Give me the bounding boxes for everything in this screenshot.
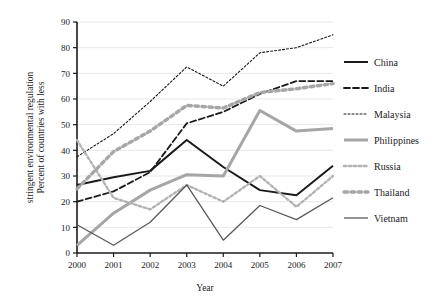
legend-label-vietnam: Vietnam xyxy=(374,213,408,224)
y-tick-label: 60 xyxy=(61,94,71,104)
x-tick-label: 2006 xyxy=(287,260,306,270)
legend-label-philippines: Philippines xyxy=(374,135,419,146)
legend-label-thailand: Thailand xyxy=(374,187,410,198)
x-tick-label: 2004 xyxy=(214,260,233,270)
x-tick-label: 2002 xyxy=(141,260,159,270)
y-axis-ticks: 0102030405060708090 xyxy=(61,17,77,258)
line-chart: 0102030405060708090 20002001200220032004… xyxy=(0,0,433,308)
y-tick-label: 50 xyxy=(61,120,71,130)
legend-label-china: China xyxy=(374,57,398,68)
x-axis-ticks: 20002001200220032004200520062007 xyxy=(68,253,343,270)
y-axis-label-line2: stringent environmental regulation xyxy=(25,72,35,204)
data-series-group xyxy=(77,35,333,245)
y-tick-label: 70 xyxy=(61,69,71,79)
y-tick-label: 30 xyxy=(61,171,71,181)
y-tick-label: 0 xyxy=(66,248,71,258)
series-line-malaysia xyxy=(77,35,333,157)
x-tick-label: 2000 xyxy=(68,260,87,270)
x-axis-label: Year xyxy=(196,283,214,293)
y-tick-label: 20 xyxy=(61,197,71,207)
x-tick-label: 2001 xyxy=(105,260,123,270)
y-tick-label: 40 xyxy=(61,146,71,156)
legend-label-russia: Russia xyxy=(374,161,401,172)
y-tick-label: 10 xyxy=(61,223,71,233)
chart-figure: 0102030405060708090 20002001200220032004… xyxy=(0,0,433,308)
x-tick-label: 2005 xyxy=(251,260,270,270)
y-tick-label: 80 xyxy=(61,43,71,53)
x-tick-label: 2003 xyxy=(178,260,197,270)
y-tick-label: 90 xyxy=(61,17,71,27)
legend-label-malaysia: Malaysia xyxy=(374,109,411,120)
y-axis-label-line1: Percent of countries with less xyxy=(36,81,46,193)
x-tick-label: 2007 xyxy=(324,260,343,270)
series-line-china xyxy=(77,140,333,195)
gridlines xyxy=(77,22,333,227)
legend-label-india: India xyxy=(374,83,395,94)
chart-legend: ChinaIndiaMalaysiaPhilippinesRussiaThail… xyxy=(344,57,419,224)
